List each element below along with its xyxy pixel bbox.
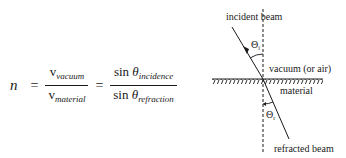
refraction-diagram: incident beam Θi vacuum (or air) materia… <box>0 0 346 158</box>
vacuum-label: vacuum (or air) <box>269 63 331 75</box>
surface-hatching <box>212 79 323 84</box>
incident-beam-ray <box>232 27 263 79</box>
refracted-beam-label: refracted beam <box>274 143 334 154</box>
incident-arrow-icon <box>243 46 249 54</box>
theta-i-label: Θi <box>251 39 260 51</box>
incident-beam-label: incident beam <box>226 11 283 22</box>
theta-i-arc <box>250 54 263 58</box>
theta-r-label: Θr <box>266 109 275 121</box>
material-label: material <box>280 85 313 96</box>
